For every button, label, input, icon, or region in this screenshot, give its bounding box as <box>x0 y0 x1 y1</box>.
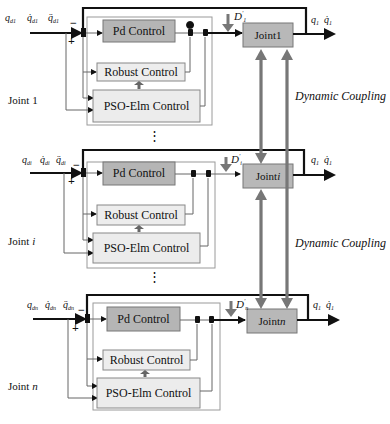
sum-node-2 <box>203 29 208 36</box>
disturbance-label-i: D'i <box>231 153 242 166</box>
plus-sign: + <box>68 35 75 47</box>
pd-control-label: Pd Control <box>103 20 175 42</box>
pso-elm-control-label: PSO-Elm Control <box>93 90 200 122</box>
input-qdd-desired-n: q̈dn <box>63 300 74 311</box>
pd-control-label: Pd Control <box>103 162 175 185</box>
input-q-desired-n: qdn <box>27 300 38 311</box>
ellipsis-2: ⋮ <box>148 270 161 283</box>
plus-sign: + <box>72 322 79 334</box>
input-q-desired-i: qdi <box>22 155 32 166</box>
joint-n-side-label: Joint n <box>8 381 38 392</box>
pso-elm-control-label: PSO-Elm Control <box>97 378 200 408</box>
input-qd-desired-i: q̇di <box>40 155 50 166</box>
joint-i-label: Joint i <box>243 164 293 188</box>
robust-control-label: Robust Control <box>97 63 185 81</box>
dynamic-coupling-label-1: Dynamic Coupling <box>295 90 386 102</box>
input-qdd-desired-i: q̈di <box>56 155 66 166</box>
joint-1-label: Joint 1 <box>243 23 293 47</box>
minus-sign: − <box>70 17 77 29</box>
robust-control-label: Robust Control <box>97 205 185 225</box>
plus-sign: + <box>68 175 75 187</box>
output-q-1: q1 q̇1 <box>311 15 332 26</box>
output-q-i: q1 q̇1 <box>311 155 332 166</box>
minus-sign: − <box>78 304 85 316</box>
diagram-canvas <box>0 0 390 424</box>
dynamic-coupling-label-2: Dynamic Coupling <box>295 237 386 249</box>
pso-elm-control-label: PSO-Elm Control <box>93 233 200 263</box>
joint-i-side-label: Joint i <box>8 236 35 247</box>
input-qd-desired-1: q̇d1 <box>27 13 38 24</box>
minus-sign: − <box>73 159 80 171</box>
robust-control-label: Robust Control <box>103 350 190 370</box>
input-qdd-desired-1: q̈d1 <box>48 13 59 24</box>
pso-to-robust-arrow <box>134 81 144 85</box>
summing-junction <box>81 28 86 37</box>
joint-1-side-label: Joint 1 <box>8 95 38 106</box>
disturbance-arrow <box>222 24 234 32</box>
input-qd-desired-n: q̇dn <box>45 300 56 311</box>
joint-n-label: Joint n <box>247 309 297 333</box>
ellipsis-1: ⋮ <box>148 129 161 142</box>
pd-control-label: Pd Control <box>107 307 180 331</box>
disturbance-label-1: D'1 <box>234 10 246 23</box>
input-q-desired-1: qd1 <box>5 13 16 24</box>
output-q-n: q1 q̇1 <box>313 300 334 311</box>
